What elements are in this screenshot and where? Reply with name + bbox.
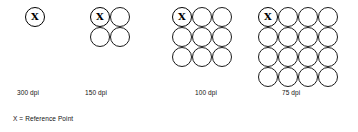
dot-grid-300dpi bbox=[25, 7, 45, 27]
dot bbox=[172, 27, 192, 47]
dot bbox=[278, 7, 298, 27]
dot bbox=[278, 47, 298, 67]
dpi-label-75: 75 dpi bbox=[282, 89, 300, 96]
dpi-label-300: 300 dpi bbox=[17, 89, 39, 96]
dot-grid-75dpi bbox=[258, 7, 338, 87]
dot bbox=[258, 27, 278, 47]
reference-point-dot bbox=[172, 7, 192, 27]
dot bbox=[90, 27, 110, 47]
dpi-label-100: 100 dpi bbox=[195, 89, 217, 96]
dot bbox=[278, 27, 298, 47]
dot bbox=[318, 27, 338, 47]
dot bbox=[110, 7, 130, 27]
dot bbox=[258, 47, 278, 67]
dot-grid-150dpi bbox=[90, 7, 130, 47]
dot bbox=[212, 27, 232, 47]
dot bbox=[298, 7, 318, 27]
dot bbox=[110, 27, 130, 47]
dot bbox=[192, 27, 212, 47]
dot bbox=[192, 7, 212, 27]
dot bbox=[172, 47, 192, 67]
reference-point-dot bbox=[90, 7, 110, 27]
dot bbox=[212, 7, 232, 27]
dot bbox=[318, 67, 338, 87]
dot bbox=[278, 67, 298, 87]
dot bbox=[318, 47, 338, 67]
dot bbox=[212, 47, 232, 67]
reference-point-dot bbox=[258, 7, 278, 27]
legend-reference-point: X = Reference Point bbox=[13, 115, 73, 122]
dot bbox=[298, 27, 318, 47]
dot-grid-100dpi bbox=[172, 7, 232, 67]
dot bbox=[192, 47, 212, 67]
dpi-label-150: 150 dpi bbox=[85, 89, 107, 96]
dot bbox=[298, 47, 318, 67]
reference-point-dot bbox=[25, 7, 45, 27]
dot bbox=[318, 7, 338, 27]
dot bbox=[258, 67, 278, 87]
dot-resolution-figure: 300 dpi150 dpi100 dpi75 dpiX = Reference… bbox=[0, 0, 358, 132]
dot bbox=[298, 67, 318, 87]
